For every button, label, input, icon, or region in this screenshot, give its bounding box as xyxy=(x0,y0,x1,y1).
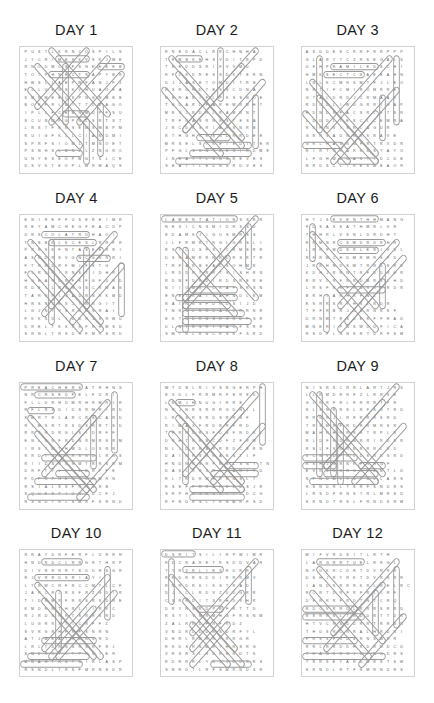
grid-cell: C xyxy=(36,392,43,400)
grid-cell: J xyxy=(176,407,183,415)
grid-cell: E xyxy=(244,72,251,80)
grid-cell: R xyxy=(97,636,104,644)
grid-cell: B xyxy=(203,446,210,454)
grid-cell: M xyxy=(70,141,77,149)
grid-cell: T xyxy=(237,80,244,88)
grid-cell xyxy=(124,255,131,263)
grid-cell: J xyxy=(110,491,117,499)
grid-cell: Y xyxy=(163,568,170,576)
grid-cell: F xyxy=(210,430,217,438)
grid-cell: T xyxy=(344,560,351,568)
grid-cell: N xyxy=(43,301,50,309)
grid-cell: N xyxy=(364,293,371,301)
grid-cell: S xyxy=(251,285,258,293)
grid-cell: F xyxy=(244,415,251,423)
grid-cell: L xyxy=(210,95,217,103)
grid-cell: E xyxy=(391,80,398,88)
grid-cell: R xyxy=(63,590,70,598)
grid-cell: H xyxy=(103,385,110,393)
grid-cell: R xyxy=(210,49,217,57)
grid-cell: F xyxy=(237,629,244,637)
grid-cell: S xyxy=(90,484,97,492)
grid-cell xyxy=(124,163,131,171)
grid-cell: T xyxy=(43,125,50,133)
grid-cell: N xyxy=(110,499,117,507)
grid-cell: R xyxy=(344,423,351,431)
grid-cell: E xyxy=(117,156,124,164)
grid-cell: J xyxy=(163,125,170,133)
grid-cell: R xyxy=(190,438,197,446)
grid-cell: D xyxy=(117,415,124,423)
grid-cell: E xyxy=(110,468,117,476)
grid-cell xyxy=(405,224,412,232)
grid-cell: F xyxy=(344,285,351,293)
grid-cell: H xyxy=(331,430,338,438)
grid-cell: D xyxy=(117,407,124,415)
grid-cell: T xyxy=(22,240,29,248)
grid-cell: R xyxy=(351,590,358,598)
grid-cell xyxy=(405,118,412,126)
grid-cell: J xyxy=(103,57,110,65)
grid-cell: L xyxy=(190,385,197,393)
grid-cell: D xyxy=(385,438,392,446)
grid-cell: D xyxy=(317,49,324,57)
grid-cell: E xyxy=(76,125,83,133)
grid-cell: F xyxy=(337,423,344,431)
grid-cell: R xyxy=(371,644,378,652)
word-search-grid: LAMENTATIONSSRRNEXICNSMIDRSSDEDAMKJIGOSM… xyxy=(160,214,274,342)
grid-cell: N xyxy=(70,270,77,278)
grid-cell: I xyxy=(310,552,317,560)
grid-cell: N xyxy=(56,72,63,80)
grid-cell: X xyxy=(170,392,177,400)
grid-cell: F xyxy=(324,438,331,446)
grid-cell: S xyxy=(76,430,83,438)
grid-cell: M xyxy=(237,247,244,255)
grid-cell: N xyxy=(22,392,29,400)
grid-cell xyxy=(405,568,412,576)
grid-cell: R xyxy=(217,446,224,454)
grid-cell: S xyxy=(337,49,344,57)
grid-cell: N xyxy=(244,95,251,103)
grid-cell: S xyxy=(244,247,251,255)
grid-cell: T xyxy=(251,110,258,118)
grid-cell: D xyxy=(217,438,224,446)
grid-cell: R xyxy=(337,461,344,469)
grid-cell: R xyxy=(230,606,237,614)
grid-cell: R xyxy=(391,263,398,271)
grid-cell: N xyxy=(176,278,183,286)
grid-cell: L xyxy=(36,400,43,408)
grid-cell: F xyxy=(344,590,351,598)
grid-cell: D xyxy=(76,316,83,324)
grid-cell: R xyxy=(49,423,56,431)
grid-cell: S xyxy=(337,468,344,476)
grid-cell xyxy=(117,644,124,652)
grid-cell: J xyxy=(117,80,124,88)
grid-cell xyxy=(405,247,412,255)
grid-cell: R xyxy=(230,316,237,324)
grid-cell: R xyxy=(224,568,231,576)
grid-cell: C xyxy=(337,568,344,576)
grid-cell: R xyxy=(398,583,405,591)
word-search-grid: HYJSEVENTHHMANGFDSASSATHMRLVRTHHRLVSNLDR… xyxy=(301,214,415,342)
grid-cell: S xyxy=(176,651,183,659)
grid-cell: R xyxy=(49,590,56,598)
grid-cell xyxy=(405,95,412,103)
grid-cell xyxy=(264,224,271,232)
grid-cell: E xyxy=(90,64,97,72)
grid-cell: L xyxy=(310,392,317,400)
grid-cell: S xyxy=(351,484,358,492)
grid-cell: R xyxy=(351,285,358,293)
grid-cell: H xyxy=(324,141,331,149)
grid-cell: I xyxy=(331,324,338,332)
grid-cell: R xyxy=(49,255,56,263)
grid-cell: M xyxy=(90,438,97,446)
grid-cell: R xyxy=(163,499,170,507)
grid-cell: A xyxy=(378,133,385,141)
grid-cell: R xyxy=(391,240,398,248)
grid-cell: Z xyxy=(358,392,365,400)
grid-cell: R xyxy=(197,484,204,492)
grid-cell: N xyxy=(317,667,324,675)
grid-cell: R xyxy=(337,331,344,339)
grid-cell: R xyxy=(210,644,217,652)
grid-cell: L xyxy=(371,476,378,484)
